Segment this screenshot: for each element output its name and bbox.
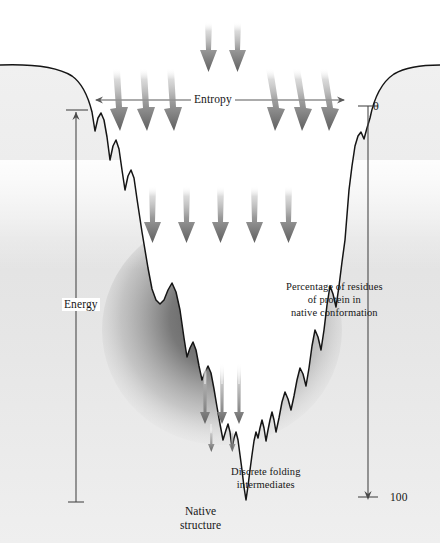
entropy-arrow bbox=[246, 186, 263, 243]
percentage-axis-label: Percentage of residues of protein in nat… bbox=[286, 281, 383, 319]
entropy-arrow bbox=[212, 186, 229, 243]
entropy-arrow bbox=[229, 22, 246, 72]
entropy-arrow bbox=[280, 186, 297, 243]
percentage-axis-label-line1: Percentage of residues bbox=[286, 281, 383, 294]
entropy-arrow bbox=[178, 186, 195, 243]
molten-globule-label: Molten globule states bbox=[186, 279, 252, 304]
entropy-arrow bbox=[144, 186, 161, 243]
energy-funnel-figure: Entropy Energy 0 100 Percentage of resid… bbox=[0, 0, 440, 543]
molten-globule-label-line1: Molten globule bbox=[186, 279, 252, 292]
entropy-axis-label: Entropy bbox=[191, 93, 235, 106]
funnel-fill bbox=[0, 0, 440, 543]
discrete-intermediates-label-line2: intermediates bbox=[231, 479, 301, 492]
percentage-tick-hundred: 100 bbox=[390, 491, 408, 504]
molten-globule-label-line2: states bbox=[186, 292, 252, 305]
percentage-axis-label-line2: of protein in bbox=[286, 294, 383, 307]
percentage-axis-label-line3: native conformation bbox=[286, 307, 383, 320]
energy-axis-label: Energy bbox=[62, 298, 100, 311]
native-structure-label: Native structure bbox=[180, 505, 221, 533]
arrow-group-upper-right bbox=[266, 68, 339, 131]
native-structure-label-line1: Native bbox=[180, 505, 221, 519]
native-structure-label-line2: structure bbox=[180, 519, 221, 533]
discrete-intermediates-label-line1: Discrete folding bbox=[231, 466, 301, 479]
arrow-group-top-center bbox=[200, 22, 246, 72]
arrow-group-upper-left bbox=[110, 68, 182, 131]
funnel-diagram-svg bbox=[0, 0, 440, 543]
percentage-tick-zero: 0 bbox=[373, 100, 379, 113]
arrow-group-mid bbox=[144, 186, 297, 243]
entropy-arrow bbox=[200, 22, 217, 72]
discrete-intermediates-label: Discrete folding intermediates bbox=[231, 466, 301, 491]
